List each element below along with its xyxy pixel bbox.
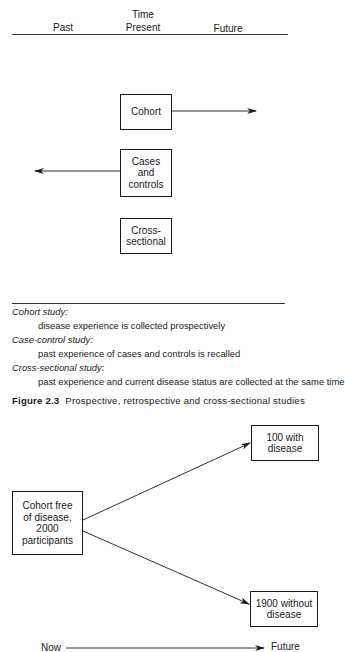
- cohort-box: Cohort: [120, 94, 172, 130]
- cross-sectional-box: Cross- sectional: [120, 218, 172, 254]
- timeline-future-label: Future: [271, 641, 300, 652]
- case-control-title: Case-control study:: [12, 334, 93, 345]
- arrow-to-without-disease: [83, 531, 249, 604]
- cross-sectional-desc: past experience and current disease stat…: [38, 376, 344, 387]
- arrow-to-with-disease: [83, 443, 250, 520]
- cohort-study-desc: disease experience is collected prospect…: [38, 320, 225, 331]
- cases-controls-box: Cases and controls: [120, 149, 172, 197]
- with-disease-box: 100 with disease: [251, 425, 319, 461]
- legend-divider: [12, 303, 285, 304]
- cross-sectional-title: Cross-sectional study:: [12, 362, 104, 373]
- figure-caption: Figure 2.3Prospective, retrospective and…: [12, 395, 305, 406]
- figure-number: Figure 2.3: [12, 395, 59, 406]
- without-disease-box: 1900 without disease: [250, 591, 318, 627]
- now-label: Now: [41, 642, 61, 652]
- figure-caption-text: Prospective, retrospective and cross-sec…: [65, 395, 305, 406]
- cohort-study-title: Cohort study:: [12, 306, 68, 317]
- case-control-desc: past experience of cases and controls is…: [38, 348, 240, 359]
- cohort-free-box: Cohort free of disease, 2000 participant…: [12, 491, 83, 555]
